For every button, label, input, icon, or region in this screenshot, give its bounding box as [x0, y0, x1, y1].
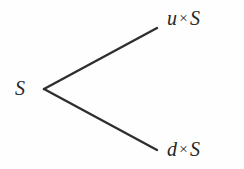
up-node-label: u×S [167, 8, 200, 28]
up-branch-line [44, 28, 157, 89]
root-variable: S [15, 77, 25, 99]
down-node-label: d×S [167, 139, 200, 159]
multiplication-icon: × [177, 10, 190, 26]
binomial-tree-diagram: S u×S d×S [0, 0, 244, 169]
down-variable: S [190, 138, 200, 160]
multiplication-icon: × [177, 141, 190, 157]
branch-lines-group [0, 0, 244, 169]
down-branch-line [44, 89, 157, 150]
root-node-label: S [15, 78, 25, 98]
up-variable: S [190, 7, 200, 29]
up-coefficient: u [167, 7, 177, 29]
down-coefficient: d [167, 138, 177, 160]
